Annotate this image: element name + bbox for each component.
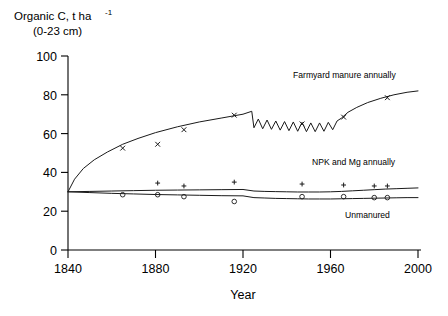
x-tick-label-1960: 1960 (317, 262, 345, 276)
x-tick-label-2000: 2000 (404, 262, 432, 276)
chart-figure: Organic C, t ha -1 (0-23 cm) 100 80 60 4… (0, 0, 448, 316)
series-label-npk-mg: NPK and Mg annually (312, 157, 396, 167)
marker-plus (341, 183, 346, 188)
y-axis-ticks (61, 56, 68, 250)
marker-circle (372, 195, 377, 200)
x-axis-ticks (68, 250, 418, 258)
series-layer (68, 91, 418, 204)
x-axis-title: Year (230, 288, 255, 302)
y-tick-label-80: 80 (43, 89, 57, 103)
y-tick-label-20: 20 (43, 205, 57, 219)
y-axis-label-line2: (0-23 cm) (33, 25, 82, 37)
x-tick-label-1880: 1880 (142, 262, 170, 276)
x-tick-label-1840: 1840 (54, 262, 82, 276)
y-tick-label-40: 40 (43, 166, 57, 180)
marker-circle (120, 192, 125, 197)
marker-circle (300, 194, 305, 199)
organic-carbon-line-chart: Organic C, t ha -1 (0-23 cm) 100 80 60 4… (0, 0, 448, 316)
marker-plus (182, 184, 187, 189)
marker-circle (232, 199, 237, 204)
series-label-unmanured: Unmanured (345, 210, 390, 220)
y-tick-label-60: 60 (43, 128, 57, 142)
marker-cross (120, 146, 125, 151)
series-npk-and-mg-annually (68, 180, 418, 192)
marker-plus (372, 184, 377, 189)
marker-plus (155, 181, 160, 186)
marker-plus (385, 184, 390, 189)
marker-cross (182, 127, 187, 132)
series-line (68, 188, 418, 192)
marker-cross (155, 142, 160, 147)
x-tick-label-1920: 1920 (229, 262, 257, 276)
series-line (68, 91, 418, 192)
y-axis-label-exponent: -1 (105, 8, 113, 17)
y-tick-label-100: 100 (36, 50, 57, 64)
series-unmanured (68, 192, 418, 204)
y-axis-label-line1: Organic C, t ha (14, 10, 92, 22)
series-label-farmyard-manure: Farmyard manure annually (293, 70, 396, 80)
marker-plus (232, 180, 237, 185)
series-farmyard-manure-annually (68, 91, 418, 192)
y-tick-label-0: 0 (50, 244, 57, 258)
marker-plus (300, 182, 305, 187)
